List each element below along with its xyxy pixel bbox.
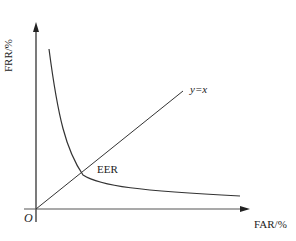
chart-canvas <box>0 0 296 241</box>
x-axis-arrow-icon <box>240 206 250 212</box>
x-axis-label: FAR/% <box>254 218 287 230</box>
origin-label: O <box>24 211 33 226</box>
eer-label: EER <box>97 163 118 175</box>
y-axis-label: FRR/% <box>2 39 14 72</box>
y-axis-arrow-icon <box>33 22 39 32</box>
line-label: y=x <box>190 83 207 95</box>
